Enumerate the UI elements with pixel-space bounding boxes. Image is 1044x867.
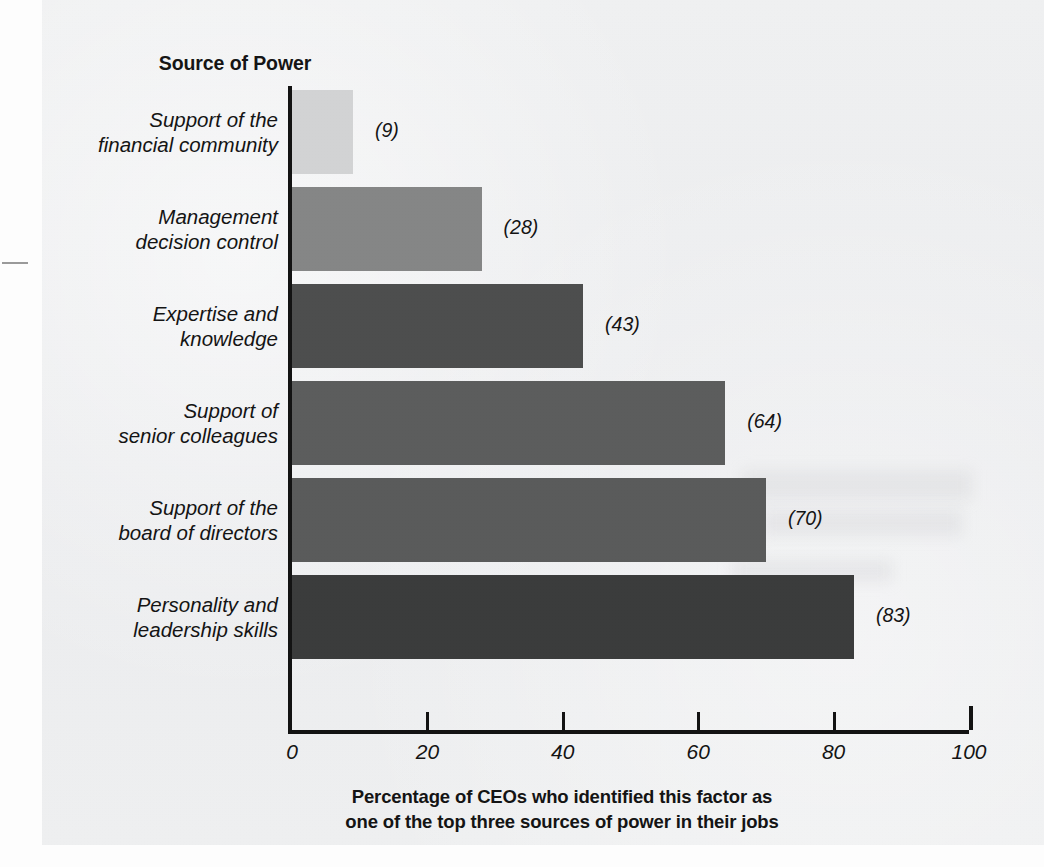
bar[interactable]	[292, 90, 353, 174]
bar-category-label-line: knowledge	[62, 326, 278, 351]
bar-category-label-line: Support of	[62, 398, 278, 423]
value-axis-tick-label: 80	[804, 740, 864, 764]
bar-category-label-line: board of directors	[62, 520, 278, 545]
bar-category-label: Support of theboard of directors	[62, 495, 278, 545]
bar-row: Personality andleadership skills(83)	[42, 575, 1044, 659]
value-axis-tick	[562, 712, 565, 730]
value-axis-tick-label: 60	[668, 740, 728, 764]
bar-category-label-line: financial community	[62, 132, 278, 157]
bar-category-label-line: Support of the	[62, 495, 278, 520]
chart-caption-line: Percentage of CEOs who identified this f…	[242, 784, 882, 809]
value-axis-tick	[969, 706, 973, 730]
value-axis-tick-label: 0	[262, 740, 322, 764]
bar-chart-plot: Source of Power Support of thefinancial …	[42, 0, 1044, 845]
bar-row: Managementdecision control(28)	[42, 187, 1044, 271]
bar-category-label-line: decision control	[62, 229, 278, 254]
bar-value-label: (43)	[605, 313, 640, 336]
bar-row: Expertise andknowledge(43)	[42, 284, 1044, 368]
bar[interactable]	[292, 381, 725, 465]
chart-panel: Source of Power Support of thefinancial …	[42, 0, 1044, 845]
bar-value-label: (83)	[876, 604, 911, 627]
chart-caption: Percentage of CEOs who identified this f…	[242, 784, 882, 834]
chart-caption-line: one of the top three sources of power in…	[242, 809, 882, 834]
value-axis-tick-label: 20	[397, 740, 457, 764]
value-axis-line	[288, 730, 969, 734]
bar-category-label-line: Support of the	[62, 107, 278, 132]
bar[interactable]	[292, 575, 854, 659]
value-axis-tick-label: 100	[939, 740, 999, 764]
bar-category-label: Expertise andknowledge	[62, 301, 278, 351]
bar[interactable]	[292, 478, 766, 562]
value-axis-tick	[426, 712, 429, 730]
category-axis-title: Source of Power	[135, 52, 335, 75]
bar-category-label-line: Personality and	[62, 592, 278, 617]
bar-value-label: (28)	[504, 216, 539, 239]
bar-category-label: Managementdecision control	[62, 204, 278, 254]
value-axis-tick-label: 40	[533, 740, 593, 764]
bar-row: Support of thefinancial community(9)	[42, 90, 1044, 174]
bar-row: Support ofsenior colleagues(64)	[42, 381, 1044, 465]
scan-artifact-dash	[2, 262, 28, 264]
page-canvas: Source of Power Support of thefinancial …	[0, 0, 1044, 867]
bar-category-label: Support ofsenior colleagues	[62, 398, 278, 448]
bar-category-label-line: senior colleagues	[62, 423, 278, 448]
bar-category-label-line: leadership skills	[62, 617, 278, 642]
bar-category-label: Personality andleadership skills	[62, 592, 278, 642]
value-axis-tick	[288, 706, 292, 730]
bar[interactable]	[292, 187, 482, 271]
bar-value-label: (9)	[375, 119, 399, 142]
bar-value-label: (70)	[788, 507, 823, 530]
bar-value-label: (64)	[747, 410, 782, 433]
bar-category-label: Support of thefinancial community	[62, 107, 278, 157]
bar-category-label-line: Expertise and	[62, 301, 278, 326]
value-axis-tick	[833, 712, 836, 730]
bar-category-label-line: Management	[62, 204, 278, 229]
value-axis-tick	[697, 712, 700, 730]
bar[interactable]	[292, 284, 583, 368]
bar-row: Support of theboard of directors(70)	[42, 478, 1044, 562]
